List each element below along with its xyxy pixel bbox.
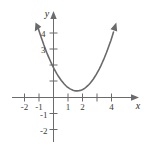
coordinate-plane: -2 -1 1 2 4 4 3 -1 -2 x y xyxy=(0,0,150,149)
x-tick-label-2: 2 xyxy=(80,102,85,112)
parabola-curve xyxy=(38,29,113,91)
y-axis-label: y xyxy=(44,8,50,19)
y-tick-label-neg2: -2 xyxy=(40,126,48,136)
y-tick-label-4: 4 xyxy=(41,29,46,39)
y-tick-label-neg1: -1 xyxy=(40,110,48,120)
x-tick-label-neg2: -2 xyxy=(21,102,29,112)
curve-right-arrowhead-icon xyxy=(111,23,118,32)
y-tick-label-3: 3 xyxy=(41,45,46,55)
x-axis-label: x xyxy=(135,100,141,111)
y-axis-arrowhead-icon xyxy=(50,11,56,19)
x-tick-label-1: 1 xyxy=(66,102,71,112)
x-tick-label-4: 4 xyxy=(109,102,114,112)
parabola-figure: -2 -1 1 2 4 4 3 -1 -2 x y xyxy=(0,0,150,149)
